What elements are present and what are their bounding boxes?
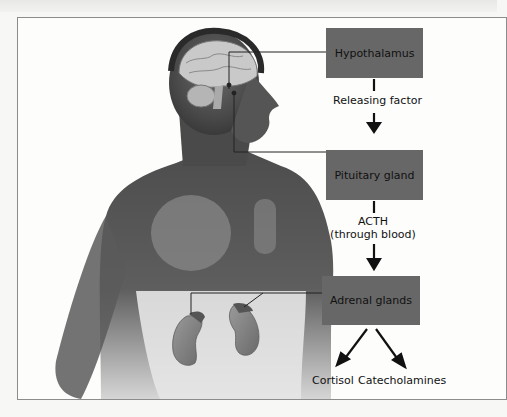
pituitary-gland-box: Pituitary gland	[326, 150, 423, 200]
hypothalamus-box: Hypothalamus	[326, 28, 423, 78]
through-blood-label: (through blood)	[328, 228, 418, 241]
adrenal-glands-label: Adrenal glands	[330, 294, 412, 307]
cortisol-label: Cortisol	[312, 374, 354, 387]
acth-label: ACTH	[333, 215, 413, 228]
pituitary-gland-label: Pituitary gland	[334, 169, 414, 182]
page-background-text-strip	[0, 0, 497, 12]
adrenal-glands-box: Adrenal glands	[322, 276, 420, 325]
body-illustration	[18, 18, 507, 400]
figure-frame	[17, 17, 507, 400]
releasing-factor-label: Releasing factor	[333, 94, 413, 107]
hypothalamus-label: Hypothalamus	[335, 47, 415, 60]
catecholamines-label: Catecholamines	[358, 374, 446, 387]
